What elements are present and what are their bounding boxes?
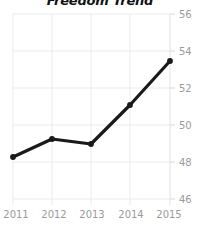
y-tick-label-48: 48 (179, 157, 192, 168)
data-point-2011 (10, 154, 16, 160)
x-tick-label-2012: 2012 (41, 209, 66, 220)
y-tick-label-52: 52 (179, 83, 192, 94)
y-tick-label-56: 56 (179, 9, 192, 20)
data-point-2015 (167, 58, 173, 64)
plot-area (0, 0, 200, 226)
y-axis-ticks (170, 14, 175, 199)
x-tick-label-2013: 2013 (79, 209, 104, 220)
x-tick-label-2015: 2015 (156, 209, 181, 220)
y-tick-label-50: 50 (179, 120, 192, 131)
line-chart: Freedom Trend (0, 0, 200, 226)
y-tick-label-46: 46 (179, 194, 192, 205)
x-tick-label-2011: 2011 (3, 209, 28, 220)
x-tick-label-2014: 2014 (118, 209, 143, 220)
data-point-2012 (49, 136, 55, 142)
data-point-2014 (127, 102, 133, 108)
y-tick-label-54: 54 (179, 46, 192, 57)
data-point-2013 (88, 141, 94, 147)
grid-lines (13, 14, 170, 205)
